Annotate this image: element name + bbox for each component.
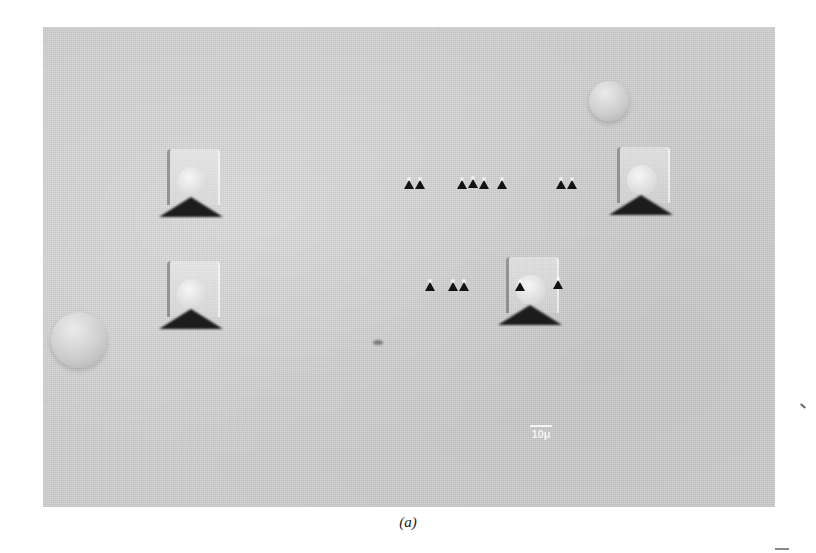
scale-bar: 10μ (526, 425, 556, 440)
scale-bar-line (530, 425, 552, 427)
small-indentation (567, 180, 577, 190)
small-indentation (459, 282, 469, 292)
small-indentation (479, 180, 489, 190)
large-indentation (159, 261, 223, 333)
small-indentation (404, 180, 414, 190)
debris-speck (373, 340, 383, 345)
large-indentation (498, 257, 562, 329)
small-indentation (468, 179, 478, 189)
small-indentation (553, 280, 563, 290)
micrograph-image: 10μ (43, 27, 775, 507)
figure-caption: (a) (0, 514, 816, 531)
large-indentation (159, 149, 223, 221)
small-indentation (515, 282, 525, 292)
small-indentation (415, 180, 425, 190)
small-indentation (556, 180, 566, 190)
small-indentation (425, 282, 435, 292)
small-indentation (457, 180, 467, 190)
bubble-left (51, 312, 107, 368)
film-grain (43, 27, 775, 507)
scan-mark (775, 548, 789, 550)
large-indentation (609, 147, 673, 219)
bubble-top-right (589, 81, 629, 121)
small-indentation (448, 282, 458, 292)
scan-mark (800, 403, 806, 408)
small-indentation (497, 180, 507, 190)
scale-bar-label: 10μ (526, 428, 556, 440)
